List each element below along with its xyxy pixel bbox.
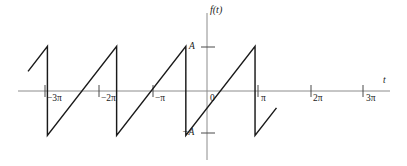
sawtooth-wave-figure: f(t) t A −A −3π −2π −π 0 π 2π 3π	[0, 0, 407, 166]
x-tick-label--2pi: −2π	[101, 94, 116, 104]
x-tick-label--pi: −π	[155, 94, 165, 104]
plot-canvas	[0, 0, 407, 166]
x-tick-label-3pi: 3π	[366, 94, 376, 104]
x-tick-label-pi: π	[261, 94, 266, 104]
amplitude-negative-label: −A	[182, 128, 194, 138]
x-axis-label: t	[383, 76, 386, 86]
x-tick-label-zero: 0	[210, 94, 215, 104]
x-tick-label-2pi: 2π	[313, 94, 323, 104]
amplitude-positive-label: A	[189, 42, 195, 52]
y-axis-label: f(t)	[210, 5, 222, 15]
x-tick-label--3pi: −3π	[47, 94, 62, 104]
